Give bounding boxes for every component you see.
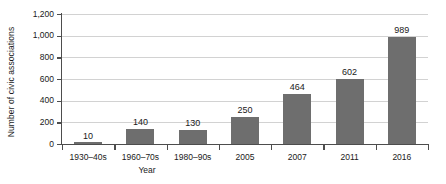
x-axis-category-label: 1930–40s	[58, 152, 118, 162]
y-axis-tick-label: 400	[8, 96, 54, 105]
x-axis-tick-mark	[114, 145, 115, 150]
gridline	[62, 57, 428, 58]
bar	[231, 117, 259, 144]
bar-chart-figure: Number of civic associations 02004006008…	[0, 0, 446, 184]
x-axis-tick-mark	[167, 145, 168, 150]
y-axis-tick-label: 1,200	[8, 10, 54, 19]
gridline	[62, 36, 428, 37]
y-axis-tick-label: 600	[8, 75, 54, 84]
y-axis-tick-labels: 02004006008001,0001,200	[8, 0, 54, 184]
x-axis-tick-mark	[271, 145, 272, 150]
x-axis-category-label: 1980–90s	[163, 152, 223, 162]
gridline	[62, 79, 428, 80]
bar-value-label: 602	[325, 67, 375, 77]
bar-value-label: 989	[377, 25, 427, 35]
bar	[388, 37, 416, 144]
bar-value-label: 464	[272, 82, 322, 92]
x-axis-title: Year	[0, 165, 370, 175]
y-axis-tick-label: 800	[8, 53, 54, 62]
y-axis-tick-label: 1,000	[8, 31, 54, 40]
bar	[126, 129, 154, 144]
bar	[336, 79, 364, 144]
bar	[179, 130, 207, 144]
x-axis-tick-mark	[219, 145, 220, 150]
x-axis-line	[62, 144, 429, 145]
x-axis-category-label: 2011	[320, 152, 380, 162]
y-axis-tick-label: 0	[8, 140, 54, 149]
y-axis-tick-label: 200	[8, 118, 54, 127]
gridline	[62, 101, 428, 102]
gridline	[62, 14, 428, 15]
bar	[283, 94, 311, 144]
bar-value-label: 10	[63, 131, 113, 141]
x-axis-tick-mark	[323, 145, 324, 150]
bar-value-label: 130	[168, 118, 218, 128]
x-axis-category-label: 2007	[267, 152, 327, 162]
x-axis-category-label: 1960–70s	[110, 152, 170, 162]
x-axis-tick-mark	[62, 145, 63, 150]
bar-value-label: 140	[115, 117, 165, 127]
x-axis-tick-mark	[428, 145, 429, 150]
x-axis-category-label: 2016	[372, 152, 432, 162]
x-axis-tick-mark	[376, 145, 377, 150]
x-axis-category-label: 2005	[215, 152, 275, 162]
y-axis-line	[61, 13, 62, 145]
bar-value-label: 250	[220, 105, 270, 115]
